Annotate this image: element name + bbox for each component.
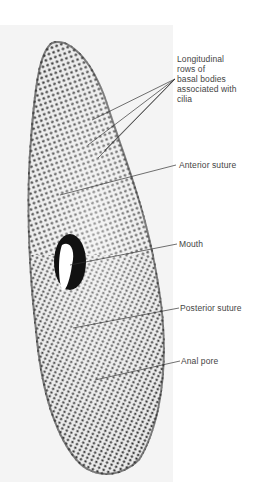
cell-illustration [0, 25, 173, 482]
micrograph [0, 25, 173, 482]
mouth-region [54, 234, 86, 290]
label-anal-pore: Anal pore [181, 356, 218, 366]
label-anterior-suture: Anterior suture [179, 160, 236, 170]
label-mouth: Mouth [179, 239, 203, 249]
label-basal-bodies: Longitudinal rows of basal bodies associ… [177, 54, 237, 104]
label-posterior-suture: Posterior suture [180, 303, 242, 313]
